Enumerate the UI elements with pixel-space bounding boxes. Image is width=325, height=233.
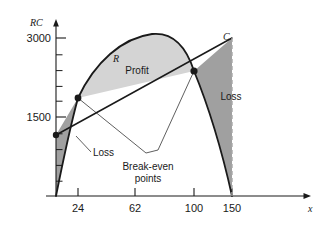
break-even-point-2-dot (190, 67, 197, 74)
x-tick-label-150: 150 (223, 202, 241, 214)
leader-line-breakeven-1 (78, 98, 146, 153)
loss-left-region-label: Loss (93, 147, 114, 158)
x-axis-arrow (304, 193, 312, 199)
leader-line-breakeven-2 (146, 71, 194, 153)
y-axis-arrow (53, 19, 59, 27)
x-axis-label: x (307, 203, 313, 214)
breakeven-annotation-line2: points (135, 173, 162, 184)
y-tick-label-3000: 3000 (27, 32, 51, 44)
y-tick-label-1500: 1500 (27, 111, 51, 123)
leader-line-loss-left (76, 136, 91, 152)
x-tick-label-100: 100 (185, 202, 203, 214)
loss-right-region-label: Loss (220, 91, 241, 102)
breakeven-annotation-line1: Break-even (122, 161, 173, 172)
x-ticks (78, 188, 232, 196)
revenue-curve-label: R (112, 53, 119, 64)
break-even-chart: RC x 3000 1500 24 62 100 150 R C Profit … (0, 0, 325, 233)
cost-intercept-dot (53, 132, 59, 138)
x-tick-label-62: 62 (129, 202, 141, 214)
profit-region-label: Profit (125, 65, 149, 76)
x-tick-label-24: 24 (72, 202, 84, 214)
y-axis-label: RC (29, 17, 43, 28)
break-even-point-1-dot (75, 95, 82, 102)
cost-curve-label: C (223, 31, 230, 42)
